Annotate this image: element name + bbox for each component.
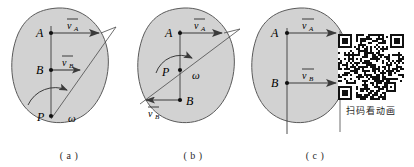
omega-label: ω — [192, 69, 200, 81]
point-A-label: A — [164, 26, 173, 40]
vector-vA-label-sub: A — [200, 25, 206, 33]
panel-b-drawing: A P B v A v B ω — [128, 0, 258, 140]
panel-a-drawing: A B P v A v B ω — [4, 0, 134, 140]
panel-b-caption: ( b ) — [128, 150, 258, 161]
vector-vB-label-v: v — [62, 57, 67, 68]
vector-vB-label-v: v — [148, 108, 153, 119]
vector-vA-label-sub: A — [73, 25, 79, 33]
qr-block: 扫码看动画 — [334, 34, 408, 117]
point-P-label: P — [161, 65, 170, 79]
qr-caption: 扫码看动画 — [334, 104, 408, 117]
point-B-dot — [285, 81, 289, 85]
figure-root: A B P v A v B ω ( a ) — [0, 0, 414, 167]
point-B-label: B — [36, 63, 44, 77]
vector-vA-label-v: v — [302, 20, 307, 31]
qr-code[interactable] — [338, 34, 404, 100]
point-P-dot — [178, 68, 182, 72]
vector-vA-label-v: v — [67, 20, 72, 31]
panel-b: A P B v A v B ω ( b ) — [128, 0, 258, 167]
rigid-body-shape — [12, 8, 109, 123]
point-A-label: A — [35, 26, 44, 40]
point-A-label: A — [270, 26, 279, 40]
point-P-label: P — [36, 110, 45, 124]
vector-vB-label-sub: B — [69, 62, 74, 70]
point-B-label: B — [186, 94, 194, 108]
point-A-dot — [285, 31, 289, 35]
vector-vB-label-sub: B — [155, 113, 160, 121]
panel-a: A B P v A v B ω ( a ) — [4, 0, 134, 167]
point-A-dot — [178, 31, 182, 35]
vector-vA-label-sub: A — [308, 25, 314, 33]
point-B-label: B — [271, 76, 279, 90]
point-A-dot — [49, 31, 53, 35]
vector-vB-label-v: v — [302, 70, 307, 81]
vector-vA-label-v: v — [194, 20, 199, 31]
panel-a-caption: ( a ) — [4, 150, 134, 161]
panel-c-caption: ( c ) — [250, 150, 380, 161]
vector-vB-label-sub: B — [309, 75, 314, 83]
point-B-dot — [178, 98, 182, 102]
omega-label: ω — [68, 112, 76, 124]
point-P-dot — [49, 114, 53, 118]
point-B-dot — [49, 68, 53, 72]
